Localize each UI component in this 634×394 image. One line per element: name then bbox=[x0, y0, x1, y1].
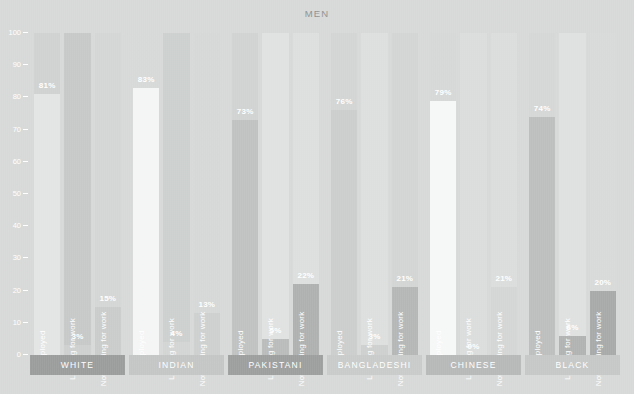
bar-group-pakistani: Employed73%Looking for work5%Not looking… bbox=[226, 33, 325, 355]
group-label-strip: WHITEINDIANPAKISTANIBANGLADESHICHINESEBL… bbox=[28, 355, 622, 375]
bar-slot[interactable]: Looking for work6% bbox=[559, 33, 585, 355]
y-axis-tick: 70 bbox=[0, 125, 28, 135]
bar-track bbox=[361, 33, 387, 355]
bar-slot[interactable]: Not looking for work20% bbox=[590, 33, 616, 355]
bar-fill[interactable] bbox=[430, 101, 456, 355]
bar-slot[interactable]: Not looking for work13% bbox=[194, 33, 220, 355]
y-axis-tick-label: 100 bbox=[8, 28, 21, 38]
y-axis-tick: 0 bbox=[0, 350, 28, 360]
bar-fill[interactable] bbox=[232, 120, 258, 355]
bar-value-label: 15% bbox=[100, 294, 117, 303]
bar-value-label: 73% bbox=[237, 107, 254, 116]
y-axis-tick: 50 bbox=[0, 189, 28, 199]
bar-value-label: 0% bbox=[468, 342, 480, 351]
y-axis-tick-label: 90 bbox=[13, 60, 21, 70]
bar-value-label: 6% bbox=[567, 323, 579, 332]
bar-slot[interactable]: Looking for work4% bbox=[163, 33, 189, 355]
bar-slot[interactable]: Looking for work3% bbox=[361, 33, 387, 355]
y-axis-tick: 40 bbox=[0, 221, 28, 231]
bar-slot[interactable]: Employed74% bbox=[529, 33, 555, 355]
group-label-indian: INDIAN bbox=[129, 355, 224, 375]
y-axis-tick-label: 60 bbox=[13, 157, 21, 167]
bar-group-chinese: Employed79%Looking for work0%Not looking… bbox=[424, 33, 523, 355]
bar-value-label: 81% bbox=[39, 81, 56, 90]
bar-slot[interactable]: Looking for work0% bbox=[460, 33, 486, 355]
bar-value-label: 3% bbox=[369, 332, 381, 341]
bar-track bbox=[262, 33, 288, 355]
group-label-pakistani: PAKISTANI bbox=[228, 355, 323, 375]
y-axis-tick-label: 30 bbox=[13, 253, 21, 263]
bar-category-label: Not looking for work bbox=[495, 312, 504, 387]
y-axis-tick: 100 bbox=[0, 28, 28, 38]
bar-value-label: 20% bbox=[595, 278, 612, 287]
plot-area: 0102030405060708090100 Employed81%Lookin… bbox=[28, 33, 622, 355]
bar-slot[interactable]: Not looking for work21% bbox=[491, 33, 517, 355]
group-label-black: BLACK bbox=[525, 355, 620, 375]
bar-slot[interactable]: Employed73% bbox=[232, 33, 258, 355]
bar-value-label: 21% bbox=[496, 274, 513, 283]
bar-value-label: 76% bbox=[336, 97, 353, 106]
bar-value-label: 4% bbox=[171, 329, 183, 338]
bar-slot[interactable]: Not looking for work22% bbox=[293, 33, 319, 355]
bar-track bbox=[559, 33, 585, 355]
bar-slot[interactable]: Looking for work3% bbox=[64, 33, 90, 355]
bar-fill[interactable] bbox=[331, 110, 357, 355]
y-axis-tick: 10 bbox=[0, 318, 28, 328]
y-axis-tick: 80 bbox=[0, 92, 28, 102]
bar-group-white: Employed81%Looking for work3%Not looking… bbox=[28, 33, 127, 355]
y-axis-tick-label: 10 bbox=[13, 318, 21, 328]
bar-value-label: 5% bbox=[270, 326, 282, 335]
y-axis-tick: 30 bbox=[0, 253, 28, 263]
bar-category-label: Not looking for work bbox=[99, 312, 108, 387]
bar-value-label: 3% bbox=[72, 332, 84, 341]
y-axis-tick-label: 50 bbox=[13, 189, 21, 199]
bar-fill[interactable] bbox=[34, 94, 60, 355]
y-axis-tick: 60 bbox=[0, 157, 28, 167]
chart-canvas: MEN 0102030405060708090100 Employed81%Lo… bbox=[0, 0, 634, 394]
bar-value-label: 74% bbox=[534, 104, 551, 113]
y-axis-tick-label: 80 bbox=[13, 92, 21, 102]
bar-track bbox=[163, 33, 189, 355]
bar-fill[interactable] bbox=[529, 117, 555, 355]
y-axis-tick-label: 0 bbox=[17, 350, 21, 360]
bar-slot[interactable]: Employed79% bbox=[430, 33, 456, 355]
chart-title: MEN bbox=[0, 8, 634, 19]
group-label-bangladeshi: BANGLADESHI bbox=[327, 355, 422, 375]
bar-value-label: 83% bbox=[138, 75, 155, 84]
bar-slot[interactable]: Employed81% bbox=[34, 33, 60, 355]
bar-track bbox=[460, 33, 486, 355]
bar-track bbox=[64, 33, 90, 355]
bar-value-label: 21% bbox=[397, 274, 414, 283]
bar-group-black: Employed74%Looking for work6%Not looking… bbox=[523, 33, 622, 355]
bar-value-label: 79% bbox=[435, 88, 452, 97]
bar-category-label: Not looking for work bbox=[198, 312, 207, 387]
y-axis-tick-label: 20 bbox=[13, 286, 21, 296]
bar-slot[interactable]: Looking for work5% bbox=[262, 33, 288, 355]
bar-slot[interactable]: Employed76% bbox=[331, 33, 357, 355]
bar-value-label: 22% bbox=[298, 271, 315, 280]
bar-category-label: Not looking for work bbox=[594, 312, 603, 387]
bar-value-label: 13% bbox=[199, 300, 216, 309]
y-axis-tick-label: 40 bbox=[13, 221, 21, 231]
bar-category-label: Not looking for work bbox=[396, 312, 405, 387]
group-label-chinese: CHINESE bbox=[426, 355, 521, 375]
bar-slot[interactable]: Not looking for work15% bbox=[95, 33, 121, 355]
y-axis-tick-label: 70 bbox=[13, 125, 21, 135]
bar-group-bangladeshi: Employed76%Looking for work3%Not looking… bbox=[325, 33, 424, 355]
bar-fill[interactable] bbox=[133, 88, 159, 355]
bar-category-label: Not looking for work bbox=[297, 312, 306, 387]
y-axis-tick: 90 bbox=[0, 60, 28, 70]
y-axis-tick: 20 bbox=[0, 286, 28, 296]
bar-slot[interactable]: Not looking for work21% bbox=[392, 33, 418, 355]
bar-group-indian: Employed83%Looking for work4%Not looking… bbox=[127, 33, 226, 355]
bar-slot[interactable]: Employed83% bbox=[133, 33, 159, 355]
group-label-white: WHITE bbox=[30, 355, 125, 375]
